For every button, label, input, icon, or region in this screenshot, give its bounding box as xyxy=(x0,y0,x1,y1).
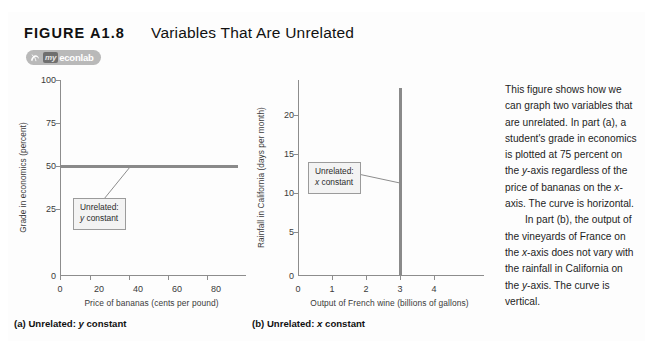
chart-a-plot-area: Unrelated: y constant xyxy=(60,80,246,276)
y-tick-mark xyxy=(294,232,299,233)
x-tick-mark xyxy=(332,275,333,280)
chart-b: Rainfall in California (days per month) … xyxy=(252,72,492,312)
x-tick-mark xyxy=(434,275,435,280)
ytick-label: 100 xyxy=(34,75,56,85)
x-tick-mark xyxy=(168,275,169,280)
callout-b-line1: Unrelated: xyxy=(315,166,354,177)
chart-a-ytick-labels: 100 75 50 25 0 xyxy=(32,72,56,284)
callout-b-leader-line xyxy=(358,172,402,186)
myeconlab-badge[interactable]: my econlab xyxy=(26,50,101,65)
swirl-icon xyxy=(30,52,41,63)
xtick-label: 0 xyxy=(57,284,62,294)
chart-b-plot-area: Unrelated: x constant xyxy=(298,80,484,276)
y-tick-mark xyxy=(56,123,61,124)
callout-a-leader-line xyxy=(100,166,140,200)
curve-a-horizontal xyxy=(60,165,238,168)
ytick-label: 50 xyxy=(34,161,56,171)
explanatory-paragraph-1: This figure shows how we can graph two v… xyxy=(505,82,637,212)
callout-a-line1: Unrelated: xyxy=(80,202,119,213)
explanatory-text: This figure shows how we can graph two v… xyxy=(505,82,637,310)
figure-screenshot: FIGURE A1.8 Variables That Are Unrelated… xyxy=(0,0,653,361)
chart-b-ylabel: Rainfall in California (days per month) xyxy=(254,72,268,282)
ytick-label: 0 xyxy=(34,271,56,281)
chart-b-xlabel: Output of French wine (billions of gallo… xyxy=(282,298,497,308)
figure-number: FIGURE A1.8 xyxy=(24,25,125,41)
chart-a-xtick-labels: 0 20 40 60 80 xyxy=(60,284,246,298)
figure-header: FIGURE A1.8 Variables That Are Unrelated xyxy=(24,24,354,42)
xtick-label: 4 xyxy=(431,284,436,294)
badge-name: econlab xyxy=(59,52,94,63)
ytick-label: 75 xyxy=(34,118,56,128)
xtick-label: 20 xyxy=(94,284,104,294)
x-tick-mark xyxy=(366,275,367,280)
chart-b-ytick-labels: 20 15 10 5 0 xyxy=(270,72,294,284)
chart-a-y-axis xyxy=(60,80,61,276)
chart-a: Grade in economics (percent) 100 75 50 2… xyxy=(14,72,254,312)
callout-b: Unrelated: x constant xyxy=(308,162,361,194)
x-tick-mark xyxy=(129,275,130,280)
ytick-label: 15 xyxy=(272,149,294,159)
caption-a: (a) Unrelated: y constant xyxy=(14,318,127,329)
ytick-label: 0 xyxy=(272,271,294,281)
ytick-label: 20 xyxy=(272,110,294,120)
chart-b-xtick-labels: 0 1 2 3 4 xyxy=(298,284,484,298)
chart-b-x-axis xyxy=(298,275,484,276)
callout-b-line2: x constant xyxy=(315,177,354,188)
chart-a-x-axis xyxy=(60,275,246,276)
badge-prefix: my xyxy=(43,52,58,63)
y-tick-mark xyxy=(56,80,61,81)
callout-a-line2: y constant xyxy=(80,213,119,224)
y-tick-mark xyxy=(294,154,299,155)
xtick-label: 2 xyxy=(363,284,368,294)
y-tick-mark xyxy=(294,115,299,116)
y-tick-mark xyxy=(294,193,299,194)
xtick-label: 80 xyxy=(211,284,221,294)
chart-b-y-axis xyxy=(298,80,299,276)
caption-b: (b) Unrelated: x constant xyxy=(252,318,365,329)
ytick-label: 10 xyxy=(272,188,294,198)
callout-a: Unrelated: y constant xyxy=(73,198,126,230)
chart-a-xlabel: Price of bananas (cents per pound) xyxy=(44,298,259,308)
xtick-label: 3 xyxy=(397,284,402,294)
x-tick-mark xyxy=(207,275,208,280)
ytick-label: 25 xyxy=(34,204,56,214)
xtick-label: 1 xyxy=(329,284,334,294)
x-tick-mark xyxy=(90,275,91,280)
y-tick-mark xyxy=(56,209,61,210)
chart-a-ylabel: Grade in economics (percent) xyxy=(16,72,30,282)
xtick-label: 40 xyxy=(133,284,143,294)
explanatory-paragraph-2: In part (b), the output of the vineyards… xyxy=(505,212,637,310)
ytick-label: 5 xyxy=(272,227,294,237)
xtick-label: 0 xyxy=(295,284,300,294)
figure-title: Variables That Are Unrelated xyxy=(151,24,354,42)
xtick-label: 60 xyxy=(172,284,182,294)
